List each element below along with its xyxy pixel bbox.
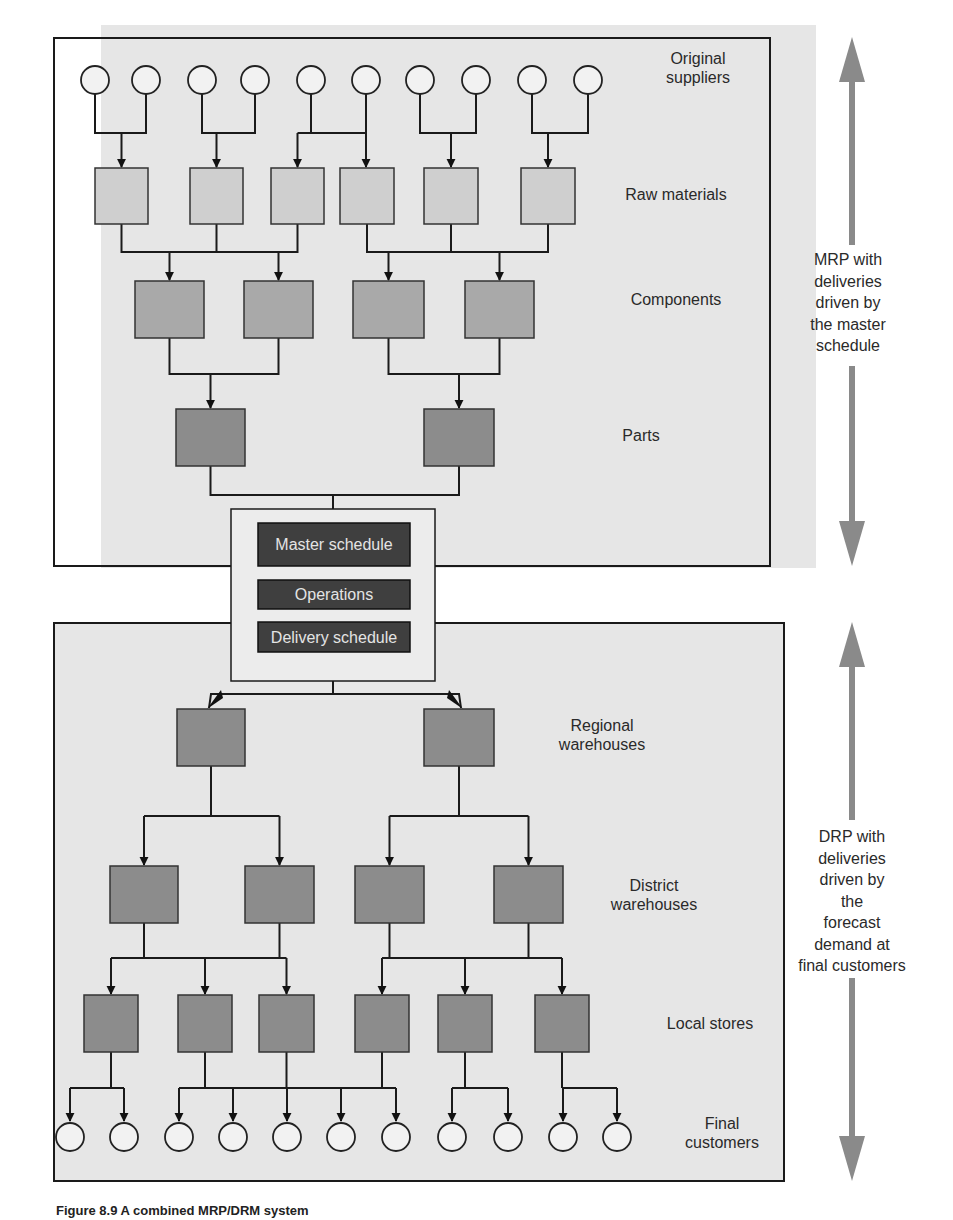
mrp-side-note: MRP withdeliveriesdriven bythe mastersch… <box>810 251 886 354</box>
customer-node-4 <box>219 1123 247 1151</box>
component-box-4 <box>465 281 534 338</box>
schedule-group: Master schedule Operations Delivery sche… <box>231 509 435 681</box>
part-box-1 <box>176 409 245 466</box>
local-store-box-1 <box>84 995 138 1052</box>
district-warehouse-box-3 <box>355 866 424 923</box>
supplier-node-4 <box>241 66 269 94</box>
label-raw-materials: Raw materials <box>625 186 726 203</box>
arrow-down-icon <box>839 521 865 566</box>
supplier-node-10 <box>574 66 602 94</box>
drp-side-note: DRP withdeliveriesdriven bytheforecastde… <box>798 828 906 974</box>
regional-warehouse-box-2 <box>424 709 494 766</box>
raw-material-box-1 <box>95 168 148 224</box>
raw-material-box-6 <box>521 168 575 224</box>
customer-node-10 <box>549 1123 577 1151</box>
component-box-2 <box>244 281 313 338</box>
supplier-node-1 <box>81 66 109 94</box>
supplier-node-3 <box>188 66 216 94</box>
raw-material-box-3 <box>271 168 324 224</box>
district-warehouse-box-2 <box>245 866 314 923</box>
customer-node-9 <box>494 1123 522 1151</box>
master-schedule-label: Master schedule <box>275 536 392 553</box>
component-box-1 <box>135 281 204 338</box>
supplier-node-9 <box>518 66 546 94</box>
label-parts: Parts <box>622 427 659 444</box>
customer-node-8 <box>438 1123 466 1151</box>
delivery-schedule-label: Delivery schedule <box>271 629 397 646</box>
regional-warehouse-box-1 <box>177 709 245 766</box>
local-store-box-3 <box>259 995 314 1052</box>
label-components: Components <box>631 291 722 308</box>
label-local-stores: Local stores <box>667 1015 753 1032</box>
district-warehouse-box-1 <box>110 866 178 923</box>
supplier-node-5 <box>297 66 325 94</box>
customer-node-3 <box>165 1123 193 1151</box>
local-store-box-2 <box>178 995 232 1052</box>
raw-material-box-2 <box>190 168 243 224</box>
local-store-box-5 <box>438 995 492 1052</box>
supplier-node-2 <box>132 66 160 94</box>
arrow-down-icon <box>839 1136 865 1181</box>
supplier-node-7 <box>406 66 434 94</box>
local-store-box-4 <box>355 995 409 1052</box>
raw-material-box-5 <box>424 168 478 224</box>
part-box-2 <box>424 409 494 466</box>
supplier-node-8 <box>462 66 490 94</box>
customer-node-7 <box>382 1123 410 1151</box>
customer-node-1 <box>56 1123 84 1151</box>
operations-label: Operations <box>295 586 373 603</box>
customer-node-6 <box>327 1123 355 1151</box>
arrow-up-icon <box>839 622 865 667</box>
component-box-3 <box>353 281 424 338</box>
customer-node-11 <box>603 1123 631 1151</box>
supplier-node-6 <box>352 66 380 94</box>
figure-caption: Figure 8.9 A combined MRP/DRM system <box>56 1203 309 1218</box>
customer-node-2 <box>110 1123 138 1151</box>
district-warehouse-box-4 <box>494 866 563 923</box>
arrow-up-icon <box>839 37 865 82</box>
local-store-box-6 <box>535 995 589 1052</box>
customer-node-5 <box>273 1123 301 1151</box>
raw-material-box-4 <box>340 168 394 224</box>
